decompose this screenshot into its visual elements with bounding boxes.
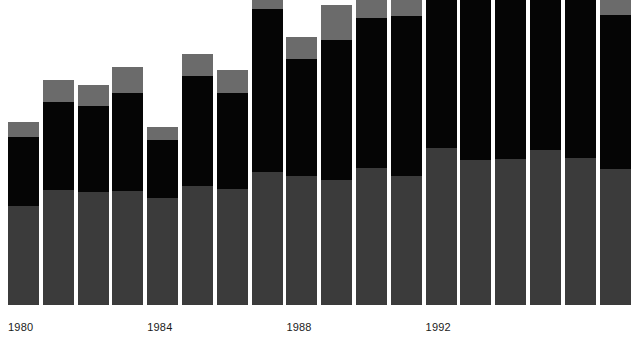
bar-1985[interactable]	[182, 54, 213, 305]
bar-segment-middle-1993	[460, 0, 491, 160]
bar-1997[interactable]	[600, 0, 631, 305]
x-tick-label-1988: 1988	[286, 321, 311, 333]
bar-segment-middle-1987	[252, 9, 283, 172]
bar-segment-top-1983	[112, 67, 143, 93]
bar-1996[interactable]	[565, 0, 596, 305]
bar-segment-middle-1982	[78, 106, 109, 192]
bar-segment-bottom-1993	[460, 160, 491, 305]
bar-1982[interactable]	[78, 85, 109, 305]
bar-segment-bottom-1987	[252, 172, 283, 305]
bar-segment-bottom-1984	[147, 198, 178, 305]
bar-segment-bottom-1982	[78, 192, 109, 305]
bar-segment-middle-1988	[286, 59, 317, 176]
bar-segment-middle-1997	[600, 15, 631, 169]
bar-segment-top-1986	[217, 70, 248, 93]
bar-segment-middle-1992	[426, 0, 457, 148]
bar-segment-top-1982	[78, 85, 109, 106]
bar-1992[interactable]	[426, 0, 457, 305]
bar-segment-top-1981	[43, 80, 74, 102]
bar-1990[interactable]	[356, 0, 387, 305]
bar-segment-bottom-1980	[8, 206, 39, 305]
bar-segment-middle-1981	[43, 102, 74, 190]
bar-chart-figure: 1980198419881992	[0, 0, 634, 357]
bar-segment-bottom-1981	[43, 190, 74, 305]
bar-segment-middle-1985	[182, 76, 213, 186]
x-tick-label-1984: 1984	[147, 321, 172, 333]
bar-segment-bottom-1991	[391, 176, 422, 305]
bar-1987[interactable]	[252, 0, 283, 305]
bar-1983[interactable]	[112, 67, 143, 305]
bar-segment-bottom-1995	[530, 150, 561, 305]
bar-1986[interactable]	[217, 70, 248, 305]
bar-segment-top-1987	[252, 0, 283, 9]
bar-segment-middle-1980	[8, 137, 39, 206]
bar-segment-top-1985	[182, 54, 213, 76]
bar-segment-bottom-1996	[565, 158, 596, 305]
bar-1994[interactable]	[495, 0, 526, 305]
bar-segment-bottom-1985	[182, 186, 213, 305]
bar-segment-bottom-1986	[217, 189, 248, 305]
x-tick-label-1980: 1980	[8, 321, 33, 333]
bar-segment-bottom-1990	[356, 168, 387, 305]
bar-segment-middle-1996	[565, 0, 596, 158]
bar-1988[interactable]	[286, 37, 317, 305]
bar-1993[interactable]	[460, 0, 491, 305]
bar-segment-top-1988	[286, 37, 317, 59]
bar-segment-bottom-1983	[112, 191, 143, 305]
bar-segment-bottom-1992	[426, 148, 457, 305]
bar-segment-bottom-1988	[286, 176, 317, 305]
bar-segment-top-1984	[147, 127, 178, 140]
bar-segment-bottom-1994	[495, 159, 526, 305]
bar-segment-bottom-1989	[321, 180, 352, 305]
bar-segment-middle-1984	[147, 140, 178, 198]
bar-1981[interactable]	[43, 80, 74, 305]
bar-segment-top-1997	[600, 0, 631, 15]
bar-segment-middle-1995	[530, 0, 561, 150]
bar-segment-middle-1983	[112, 93, 143, 191]
bar-segment-bottom-1997	[600, 169, 631, 305]
x-tick-label-1992: 1992	[426, 321, 451, 333]
bar-segment-top-1991	[391, 0, 422, 16]
plot-area	[0, 0, 634, 305]
bar-segment-top-1990	[356, 0, 387, 18]
bar-segment-middle-1990	[356, 18, 387, 168]
x-axis-tick-labels: 1980198419881992	[0, 305, 634, 357]
bar-1991[interactable]	[391, 0, 422, 305]
bar-1980[interactable]	[8, 122, 39, 305]
bar-segment-top-1989	[321, 5, 352, 40]
bar-1995[interactable]	[530, 0, 561, 305]
bar-segment-middle-1986	[217, 93, 248, 189]
bar-1984[interactable]	[147, 127, 178, 305]
bar-1989[interactable]	[321, 5, 352, 305]
bar-segment-middle-1989	[321, 40, 352, 180]
bar-segment-middle-1994	[495, 0, 526, 159]
bar-segment-top-1980	[8, 122, 39, 137]
bar-segment-middle-1991	[391, 16, 422, 176]
